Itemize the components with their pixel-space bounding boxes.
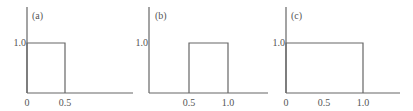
panel-a: (a) 1.0 0 0.5	[14, 7, 134, 108]
x-tick-label: 0.5	[59, 97, 72, 108]
panel-b: (b) 1.0 0.5 1.0	[136, 7, 269, 108]
panel-label: (b)	[155, 10, 167, 22]
panel-label: (c)	[291, 10, 302, 22]
x-tick-label: 0	[25, 97, 30, 108]
x-tick-label: 0	[284, 97, 289, 108]
x-tick-label: 1.0	[357, 97, 370, 108]
figure: (a) 1.0 0 0.5 (b) 1.0 0.5 1.0 (c) 1.0 0 …	[0, 0, 413, 111]
y-tick-label: 1.0	[14, 37, 27, 48]
x-tick-label: 1.0	[222, 97, 235, 108]
panel-c: (c) 1.0 0 0.5 1.0	[273, 7, 401, 108]
pulse-line	[286, 43, 363, 93]
y-tick-label: 1.0	[136, 37, 149, 48]
x-tick-label: 0.5	[183, 97, 196, 108]
x-tick-label: 0.5	[318, 97, 331, 108]
pulse-line	[189, 43, 228, 93]
panel-label: (a)	[32, 10, 43, 22]
y-tick-label: 1.0	[273, 37, 286, 48]
pulse-line	[27, 43, 65, 93]
